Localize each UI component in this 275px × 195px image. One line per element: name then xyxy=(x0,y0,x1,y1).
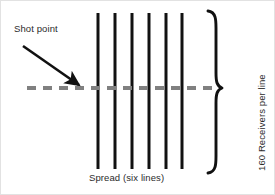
spread-caption: Spread (six lines) xyxy=(89,173,164,183)
seismic-spread-diagram: Shot point Spread (six lines) 160 Receiv… xyxy=(0,0,275,195)
receiver-lines-group xyxy=(98,13,182,169)
receivers-per-line-label: 160 Receivers per line xyxy=(257,74,267,171)
shot-point-label: Shot point xyxy=(14,24,58,34)
receivers-brace xyxy=(208,11,222,173)
shot-point-arrow xyxy=(23,46,79,85)
